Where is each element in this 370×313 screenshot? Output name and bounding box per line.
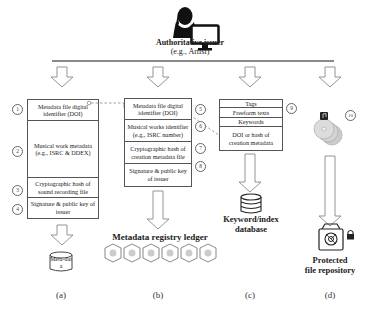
down-arrow-icon [238,153,262,193]
down-arrow-icon [146,190,170,230]
doi-or-hash-cell: DOI or hash of creation metadata [220,127,282,150]
creation-metadata-hash-cell: Cryptographic hash of creation metadata … [125,142,191,164]
keyword-entry-box: Tags Freeform texts Keywords DOI or hash… [219,99,283,151]
freeform-texts-cell: Freeform texts [220,108,282,118]
number-badge-5: 5 [195,104,206,115]
number-badge-6: 6 [195,121,206,132]
database-icon [240,193,262,215]
doi-cell: Metadata file digital identifier (DOI) [125,99,191,120]
signature-cell: Signature & public key of issuer [125,164,191,185]
down-arrow-icon [50,224,74,246]
keywords-cell: Keywords [220,118,282,127]
tags-cell: Tags [220,100,282,108]
number-badge-10: 10 [345,110,356,121]
down-arrow-icon [318,155,342,227]
caption-b: (b) [143,290,173,300]
caption-a: (a) [46,290,76,300]
database-label-line2: database [206,224,296,234]
number-badge-7: 7 [195,143,206,154]
musical-works-identifier-cell: Musical works identifier (e.g., ISRC num… [125,120,191,142]
metadata-output-label: Meta-data [50,256,72,269]
number-badge-8: 8 [195,161,206,172]
database-label-line1: Keyword/index [206,214,296,224]
repository-label-line2: file repository [290,265,370,275]
repository-label: Protected file repository [290,255,370,275]
caption-c: (c) [235,290,265,300]
caption-d: (d) [315,290,345,300]
blockchain-blocks-icon [104,243,216,263]
registry-entry-box: Metadata file digital identifier (DOI) M… [124,98,192,187]
protected-vault-icon [316,222,346,252]
number-badge-9: 9 [286,103,297,114]
database-label: Keyword/index database [206,214,296,234]
repository-label-line1: Protected [290,255,370,265]
lock-icon [346,229,355,240]
